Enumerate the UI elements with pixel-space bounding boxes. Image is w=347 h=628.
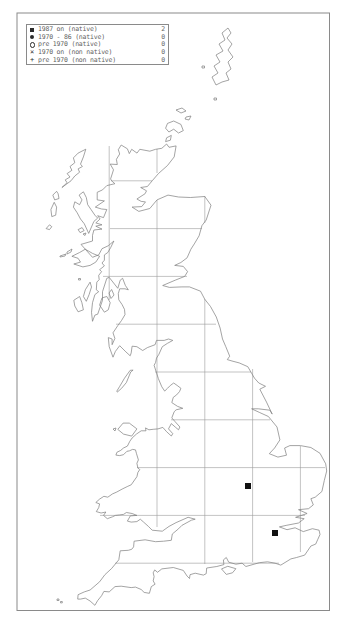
filled-square-icon: [30, 28, 38, 32]
legend-box: 1987 on (native) 2 1970 - 86 (native) 0 …: [26, 24, 169, 65]
map-border: [17, 13, 330, 611]
legend-row: 1987 on (native) 2: [30, 26, 165, 34]
distribution-map: 1987 on (native) 2 1970 - 86 (native) 0 …: [0, 0, 347, 628]
map-canvas: [0, 0, 347, 628]
x-cross-icon: ×: [30, 50, 38, 55]
islands-coastline-path: [46, 28, 236, 603]
legend-count: 0: [153, 57, 165, 64]
filled-circle-icon: [30, 35, 38, 39]
legend-label: pre 1970 (non native): [38, 57, 153, 64]
legend-row: + pre 1970 (non native) 0: [30, 56, 165, 64]
plus-icon: +: [30, 58, 38, 63]
legend-label: 1970 - 86 (native): [38, 34, 153, 41]
legend-row: pre 1970 (native) 0: [30, 41, 165, 49]
legend-label: pre 1970 (native): [38, 41, 153, 48]
grid-lines: [100, 146, 325, 564]
gb-coastline-path: [78, 144, 327, 605]
legend-label: 1970 on (non native): [38, 49, 153, 56]
open-circle-icon: [30, 42, 38, 47]
legend-label: 1987 on (native): [38, 26, 153, 33]
legend-row: × 1970 on (non native) 0: [30, 49, 165, 57]
legend-row: 1970 - 86 (native) 0: [30, 34, 165, 42]
